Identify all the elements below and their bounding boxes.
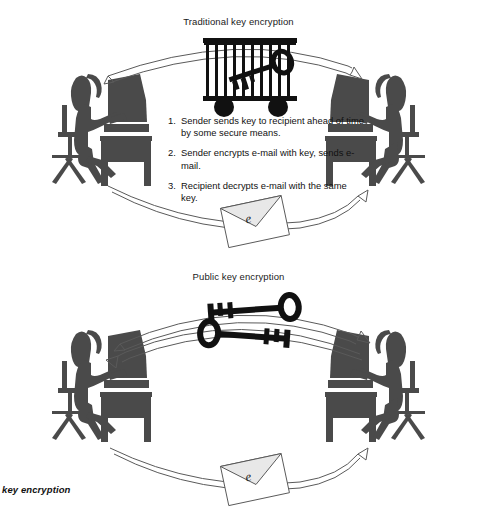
step-number: 3.	[168, 180, 176, 192]
figure-caption: key encryption	[2, 484, 70, 495]
panel-public-key-encryption: Public key encryption	[0, 258, 477, 494]
caged-key-icon	[203, 38, 297, 117]
step-item: 2. Sender encrypts e-mail with key, send…	[168, 147, 364, 171]
sender-at-computer-left	[52, 74, 152, 186]
step-text: Recipient decrypts e-mail with the same …	[181, 180, 364, 204]
steps-list-traditional: 1. Sender sends key to recipient ahead o…	[168, 115, 364, 204]
step-item: 3. Recipient decrypts e-mail with the sa…	[168, 180, 364, 204]
panel-traditional-key-encryption: Traditional key encryption	[0, 0, 477, 258]
public-key-illustration: e	[0, 258, 477, 494]
envelope-icon: e	[220, 454, 289, 506]
step-item: 1. Sender sends key to recipient ahead o…	[168, 115, 364, 139]
step-number: 2.	[168, 147, 176, 159]
sender-at-computer-left	[52, 330, 152, 442]
step-text: Sender sends key to recipient ahead of t…	[181, 115, 364, 139]
step-text: Sender encrypts e-mail with key, sends e…	[181, 147, 364, 171]
step-number: 1.	[168, 115, 176, 127]
